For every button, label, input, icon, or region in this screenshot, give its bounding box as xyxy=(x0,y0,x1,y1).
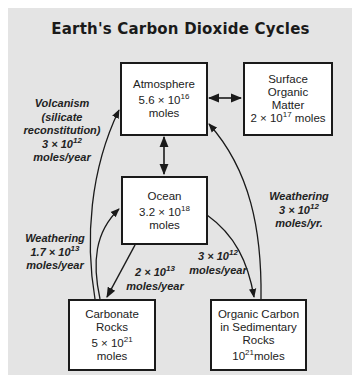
atmosphere-label: Atmosphere xyxy=(133,78,195,91)
organic-carbon-label-3: Rocks xyxy=(243,334,275,347)
atmosphere-box: Atmosphere 5.6 × 1016 moles xyxy=(120,62,208,136)
volcanism-flux-label: Volcanism (silicate reconstitution) 3 × … xyxy=(22,97,102,165)
weathering-organic-flux-label: Weathering 3 × 1012 moles/yr. xyxy=(264,190,334,231)
ocean-carbonate-flux-label: 2 × 1013 moles/year xyxy=(120,266,190,293)
ocean-unit: moles xyxy=(149,219,180,232)
weathering-organic-unit: moles/yr. xyxy=(264,217,334,231)
ocean-carbonate-rate: 2 × 1013 xyxy=(120,266,190,280)
ocean-organic-flux-label: 3 × 1012 moles/year xyxy=(183,250,253,277)
atmosphere-amount: 5.6 × 1016 xyxy=(139,94,190,107)
volcanism-sub-2: reconstitution) xyxy=(22,124,102,138)
weathering-organic-head: Weathering xyxy=(264,190,334,204)
ocean-organic-rate: 3 × 1012 xyxy=(183,250,253,264)
weathering-carbonate-unit: moles/year xyxy=(20,259,90,273)
ocean-label: Ocean xyxy=(148,190,182,203)
ocean-amount: 3.2 × 1018 xyxy=(139,206,190,219)
organic-carbon-label-2: in Sedimentary xyxy=(220,321,297,334)
organic-carbon-label-1: Organic Carbon xyxy=(218,308,299,321)
ocean-carbonate-unit: moles/year xyxy=(120,280,190,294)
weathering-carbonate-flux-label: Weathering 1.7 × 1013 moles/year xyxy=(20,232,90,273)
ocean-organic-unit: moles/year xyxy=(183,264,253,278)
weathering-carbonate-rate: 1.7 × 1013 xyxy=(20,246,90,260)
carbonate-amount: 5 × 1021 xyxy=(91,337,132,350)
carbonate-rocks-box: Carbonate Rocks 5 × 1021 moles xyxy=(68,299,156,371)
carbonate-unit: moles xyxy=(97,350,128,363)
carbonate-label-1: Carbonate xyxy=(85,308,139,321)
weathering-organic-rate: 3 × 1012 xyxy=(264,204,334,218)
surface-organic-matter-box: Surface Organic Matter 2 × 1017 moles xyxy=(243,62,333,136)
volcanism-head: Volcanism xyxy=(22,97,102,111)
surface-organic-amount: 2 × 1017 moles xyxy=(250,112,325,125)
organic-carbon-amount: 1021moles xyxy=(232,350,284,363)
ocean-box: Ocean 3.2 × 1018 moles xyxy=(121,176,208,245)
volcanism-unit: moles/year xyxy=(22,151,102,165)
surface-organic-label-1: Surface xyxy=(268,73,308,86)
surface-organic-label-2: Organic xyxy=(268,86,308,99)
volcanism-rate: 3 × 1012 xyxy=(22,138,102,152)
atmosphere-unit: moles xyxy=(149,107,180,120)
carbonate-label-2: Rocks xyxy=(96,321,128,334)
organic-carbon-box: Organic Carbon in Sedimentary Rocks 1021… xyxy=(210,299,307,371)
weathering-carbonate-arrow xyxy=(96,209,119,299)
volcanism-sub-1: (silicate xyxy=(22,111,102,125)
